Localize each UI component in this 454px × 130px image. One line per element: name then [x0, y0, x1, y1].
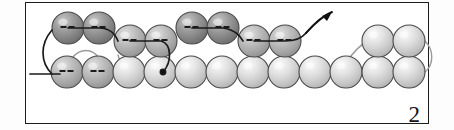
thread-direction-arrow: [306, 12, 332, 33]
bead: [393, 56, 425, 88]
bead: [113, 56, 145, 88]
bead: [362, 56, 394, 88]
bottom-row-beads: [51, 56, 425, 88]
bead: [82, 56, 114, 88]
bead: [268, 56, 300, 88]
bead: [237, 56, 269, 88]
step-number-label: 2: [409, 103, 421, 126]
beadwork-step-figure: 2: [0, 0, 454, 130]
bead: [299, 56, 331, 88]
bead: [206, 56, 238, 88]
bead: [175, 56, 207, 88]
existing-thread-loop: [425, 41, 432, 72]
bead: [330, 56, 362, 88]
beadwork-diagram-canvas: [0, 0, 454, 130]
bead: [51, 56, 83, 88]
bead: [393, 25, 425, 57]
working-thread-segment: [43, 30, 52, 74]
bead: [362, 25, 394, 57]
arrow-head-icon: [322, 12, 332, 21]
